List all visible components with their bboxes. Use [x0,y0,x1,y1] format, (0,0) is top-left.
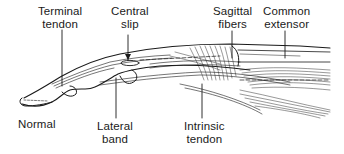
extensor-mechanism-diagram: Terminal tendon Central slip Sagittal fi… [0,0,344,154]
label-sagittal-fibers: Sagittal fibers [213,5,252,31]
label-intrinsic-tendon: Intrinsic tendon [184,120,225,146]
label-central-slip: Central slip [111,5,149,31]
label-terminal-tendon: Terminal tendon [38,5,82,31]
label-lateral-band: Lateral band [97,120,133,146]
label-common-extensor: Common extensor [263,5,310,31]
label-normal: Normal [18,118,56,131]
